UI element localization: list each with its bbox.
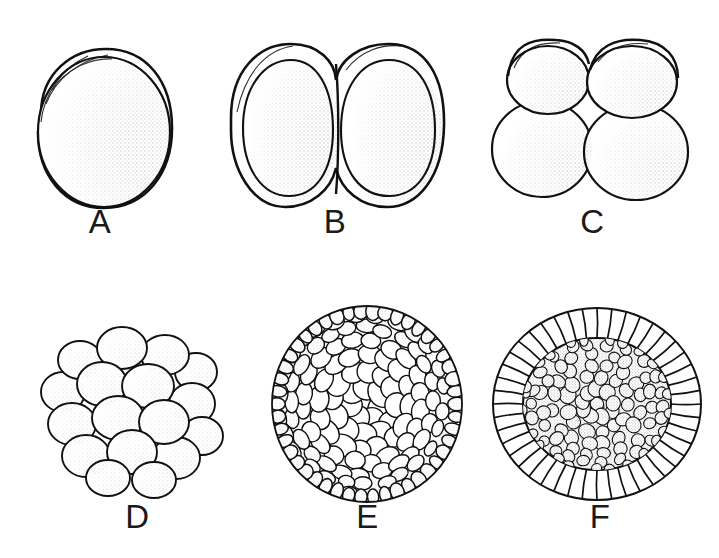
panel-f: F — [485, 300, 715, 548]
panel-c: C — [470, 18, 715, 258]
panel-e-label: E — [255, 500, 480, 533]
panel-b: B — [215, 18, 455, 258]
stipple-shading — [470, 18, 715, 218]
early-morula-illustration — [30, 300, 245, 510]
stipple-shading — [255, 300, 480, 510]
stipple-shading — [30, 300, 245, 510]
stipple-shading — [215, 18, 455, 218]
panel-b-label: B — [215, 205, 455, 238]
stipple-shading — [0, 18, 200, 218]
panel-a: A — [0, 18, 200, 258]
four-cell-illustration — [470, 18, 715, 218]
panel-e: E — [255, 300, 480, 548]
panel-c-label: C — [470, 205, 715, 238]
panel-a-label: A — [0, 205, 200, 238]
stipple-shading — [485, 300, 715, 510]
panel-f-label: F — [485, 500, 715, 533]
blastula-section-illustration — [485, 300, 715, 510]
panel-d-label: D — [30, 500, 245, 533]
late-morula-illustration — [255, 300, 480, 510]
panel-d: D — [30, 300, 245, 548]
figure-plate: A — [0, 0, 719, 558]
zygote-illustration — [0, 18, 200, 218]
two-cell-illustration — [215, 18, 455, 218]
